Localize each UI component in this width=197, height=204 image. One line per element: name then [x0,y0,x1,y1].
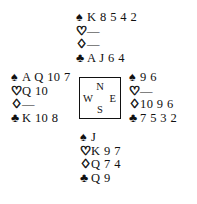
north-spade-line: ♠ K 8 5 4 2 [76,11,137,25]
west-spade-line: ♠ A Q 10 7 [11,71,71,85]
east-club-line: ♣ 7 5 3 2 [129,112,177,126]
west-hearts: Q 10 [22,85,48,99]
south-spade-line: ♠ J [80,131,121,145]
west-club-line: ♣ K 10 8 [11,112,71,126]
north-diamonds: — [87,38,100,52]
diamond-icon: ♢ [129,98,140,112]
east-diamonds: 10 9 6 [140,98,174,112]
east-spades: 9 6 [140,71,157,85]
west-clubs: K 10 8 [22,112,58,126]
diamond-icon: ♢ [76,38,87,52]
north-hearts: — [87,25,100,39]
south-hearts: K 9 7 [91,145,121,159]
east-heart-line: ♡ — [129,85,177,99]
heart-icon: ♡ [80,145,91,159]
hand-east: ♠ 9 6 ♡ — ♢ 10 9 6 ♣ 7 5 3 2 [129,71,177,125]
north-heart-line: ♡ — [76,25,137,39]
compass-west-label: W [83,93,93,104]
east-hearts: — [140,85,153,99]
east-diamond-line: ♢ 10 9 6 [129,98,177,112]
south-diamonds: Q 7 4 [91,158,121,172]
spade-icon: ♠ [129,71,140,85]
heart-icon: ♡ [76,25,87,39]
compass-south-label: S [80,104,120,115]
compass-north-label: N [80,81,120,92]
spade-icon: ♠ [80,131,91,145]
south-club-line: ♣ Q 9 [80,172,121,186]
diamond-icon: ♢ [11,98,22,112]
east-clubs: 7 5 3 2 [140,112,177,126]
south-diamond-line: ♢ Q 7 4 [80,158,121,172]
west-diamonds: — [22,98,35,112]
diamond-icon: ♢ [80,158,91,172]
south-clubs: Q 9 [91,172,111,186]
south-heart-line: ♡ K 9 7 [80,145,121,159]
heart-icon: ♡ [11,85,22,99]
spade-icon: ♠ [76,11,87,25]
west-spades: A Q 10 7 [22,71,71,85]
compass-east-label: E [110,93,116,104]
east-spade-line: ♠ 9 6 [129,71,177,85]
hand-north: ♠ K 8 5 4 2 ♡ — ♢ — ♣ A J 6 4 [76,11,137,65]
club-icon: ♣ [80,172,91,186]
bridge-hand-diagram: ♠ K 8 5 4 2 ♡ — ♢ — ♣ A J 6 4 ♠ A Q 10 7… [0,0,197,204]
south-spades: J [91,131,96,145]
north-club-line: ♣ A J 6 4 [76,52,137,66]
club-icon: ♣ [129,112,140,126]
compass-box: N W E S [79,77,121,119]
west-heart-line: ♡ Q 10 [11,85,71,99]
north-diamond-line: ♢ — [76,38,137,52]
hand-south: ♠ J ♡ K 9 7 ♢ Q 7 4 ♣ Q 9 [80,131,121,185]
hand-west: ♠ A Q 10 7 ♡ Q 10 ♢ — ♣ K 10 8 [11,71,71,125]
spade-icon: ♠ [11,71,22,85]
club-icon: ♣ [76,52,87,66]
north-spades: K 8 5 4 2 [87,11,137,25]
west-diamond-line: ♢ — [11,98,71,112]
heart-icon: ♡ [129,85,140,99]
north-clubs: A J 6 4 [87,52,125,66]
club-icon: ♣ [11,112,22,126]
